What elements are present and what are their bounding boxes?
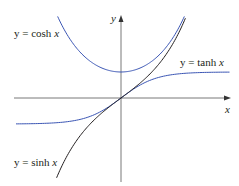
y-axis-label: y	[110, 12, 116, 24]
x-axis-arrow-icon	[224, 96, 231, 101]
tanh-label: y = tanh x	[180, 56, 224, 68]
y-axis-arrow-icon	[119, 15, 124, 22]
sinh-label: y = sinh x	[14, 156, 57, 168]
chart-svg: y x y = cosh x y = tanh x y = sinh x	[0, 0, 239, 186]
x-axis-label: x	[224, 103, 230, 115]
cosh-label: y = cosh x	[14, 27, 59, 39]
chart-figure: y x y = cosh x y = tanh x y = sinh x	[0, 0, 239, 186]
